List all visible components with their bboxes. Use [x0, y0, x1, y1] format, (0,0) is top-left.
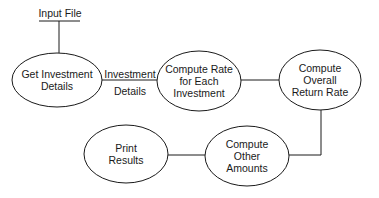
edge-investment-details-label: Investment Details: [103, 68, 157, 97]
node-text-line: Print: [84, 142, 168, 154]
node-text-line: for Each: [157, 75, 241, 87]
node-compute-overall-label: Compute Overall Return Rate: [279, 62, 361, 98]
node-get-investment-details-label: Get Investment Details: [12, 68, 102, 92]
node-text-line: Compute Rate: [157, 63, 241, 75]
input-file-label: Input File: [38, 7, 82, 19]
node-text-line: Compute: [279, 62, 361, 74]
node-text-line: Details: [12, 80, 102, 92]
node-text-line: Compute: [205, 138, 289, 150]
node-text-line: Return Rate: [279, 86, 361, 98]
node-print-results-label: Print Results: [84, 142, 168, 166]
edge-text-line: Investment: [103, 68, 157, 80]
node-compute-other-label: Compute Other Amounts: [205, 138, 289, 174]
node-text-line: Amounts: [205, 162, 289, 174]
node-text-line: Investment: [157, 87, 241, 99]
diagram-canvas: [0, 0, 379, 198]
node-text-line: Overall: [279, 74, 361, 86]
edge-text-line: Details: [103, 85, 157, 97]
node-text-line: Results: [84, 154, 168, 166]
node-text-line: Other: [205, 150, 289, 162]
edge-overall-to-other: [289, 110, 321, 155]
node-text-line: Get Investment: [12, 68, 102, 80]
node-compute-rate-label: Compute Rate for Each Investment: [157, 63, 241, 99]
